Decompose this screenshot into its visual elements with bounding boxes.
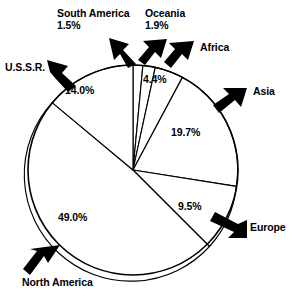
slice-callout-south-america: South America 1.5%	[57, 8, 129, 32]
slice-value-africa: 4.4%	[143, 74, 167, 86]
slice-label-asia: Asia	[253, 86, 275, 98]
slice-callout-oceania: Oceania 1.9%	[145, 8, 185, 32]
slice-label-europe: Europe	[250, 222, 286, 234]
arrow-north-america	[23, 245, 60, 275]
pie-chart: South America 1.5% Oceania 1.9% Africa U…	[0, 0, 298, 296]
arrow-south-america	[109, 38, 136, 68]
slice-value-ussr: 14.0%	[65, 85, 94, 97]
arrow-africa	[164, 41, 194, 68]
arrow-asia	[213, 88, 247, 113]
slice-value-europe: 9.5%	[178, 201, 202, 213]
slice-label-africa: Africa	[200, 42, 229, 54]
slice-label-north-america: North America	[22, 277, 93, 289]
slice-label-ussr: U.S.S.R.	[5, 62, 45, 74]
slice-value-oceania: 1.9%	[145, 20, 185, 32]
slice-label-oceania: Oceania	[145, 8, 185, 20]
arrow-oceania	[138, 39, 167, 65]
slice-value-north-america: 49.0%	[58, 212, 87, 224]
pie-chart-graphic	[0, 0, 298, 296]
slice-label-south-america: South America	[57, 8, 129, 20]
slice-value-south-america: 1.5%	[57, 20, 129, 32]
slice-value-asia: 19.7%	[171, 127, 200, 139]
